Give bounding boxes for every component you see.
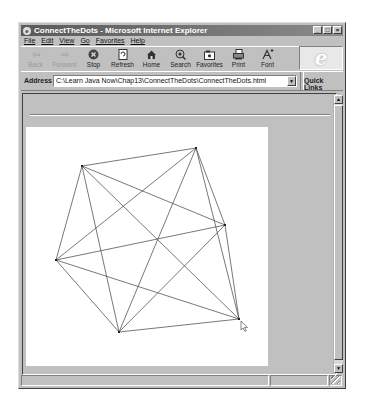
home-label: Home (143, 61, 160, 68)
forward-arrow-icon: ⇨ (59, 49, 71, 60)
connecting-line (119, 148, 196, 332)
font-icon-shape (262, 49, 274, 60)
refresh-label: Refresh (111, 61, 134, 68)
refresh-button[interactable]: Refresh (108, 47, 137, 71)
status-grip-panel (329, 375, 342, 386)
dot-D[interactable] (238, 318, 240, 320)
close-button[interactable]: × (333, 26, 342, 34)
scroll-thumb[interactable] (334, 105, 343, 360)
menu-help[interactable]: Help (131, 37, 145, 46)
address-dropdown-icon[interactable]: ▼ (287, 76, 296, 86)
stop-icon-shape (88, 49, 99, 60)
font-label: Font (261, 61, 274, 68)
favorites-label: Favorites (196, 61, 223, 68)
back-arrow-icon: ⇦ (30, 49, 42, 60)
menu-file[interactable]: File (24, 37, 35, 46)
connecting-line (82, 148, 196, 166)
home-icon-shape (146, 49, 157, 60)
minimize-button[interactable]: _ (313, 26, 322, 34)
horizontal-rule (30, 114, 330, 116)
maximize-button[interactable]: □ (323, 26, 332, 34)
connecting-line (56, 166, 82, 260)
refresh-icon-shape (118, 49, 128, 60)
scroll-down-button[interactable]: ▼ (334, 364, 343, 373)
dot-F[interactable] (55, 259, 57, 261)
connecting-line (82, 166, 239, 319)
search-label: Search (170, 61, 191, 68)
ie-app-icon: e (23, 27, 31, 35)
forward-button[interactable]: ⇨ Forward (50, 47, 79, 71)
resize-grip-icon[interactable] (331, 375, 340, 384)
address-bar: Address C:\Learn Java Now\Chap13\Connect… (21, 71, 343, 91)
connecting-line (82, 166, 225, 225)
menu-favorites[interactable]: Favorites (96, 37, 125, 46)
dot-C[interactable] (224, 224, 226, 226)
stop-icon (88, 49, 100, 60)
favorites-folder-icon (204, 49, 216, 60)
ie-throbber-logo: e (299, 46, 343, 70)
back-button[interactable]: ⇦ Back (21, 47, 50, 71)
title-bar: e ConnectTheDots - Microsoft Internet Ex… (21, 25, 343, 36)
home-icon (146, 49, 158, 60)
menu-view[interactable]: View (59, 37, 74, 46)
back-label: Back (28, 61, 42, 68)
vertical-scrollbar[interactable]: ▲ ▼ (333, 95, 343, 373)
dot-B[interactable] (195, 147, 197, 149)
stop-button[interactable]: Stop (79, 47, 108, 71)
favorites-icon-shape (204, 50, 215, 60)
dots-drawing[interactable] (26, 127, 268, 366)
dot-E[interactable] (118, 331, 120, 333)
connecting-line (196, 148, 225, 225)
dot-A[interactable] (81, 165, 83, 167)
scroll-up-button[interactable]: ▲ (334, 95, 343, 104)
status-bar (21, 375, 343, 386)
search-button[interactable]: Search (166, 47, 195, 71)
stop-label: Stop (87, 61, 100, 68)
home-button[interactable]: Home (137, 47, 166, 71)
print-label: Print (232, 61, 245, 68)
toolbar: ⇦ Back ⇨ Forward Stop Refresh Home (21, 46, 299, 72)
search-icon-shape (175, 49, 186, 60)
font-button[interactable]: Font (253, 47, 282, 71)
menu-bar: File Edit View Go Favorites Help (22, 37, 145, 46)
connecting-line (119, 319, 239, 332)
connecting-line (82, 166, 119, 332)
printer-icon-shape (233, 49, 244, 60)
connecting-line (196, 148, 239, 319)
connecting-line (119, 225, 225, 332)
forward-label: Forward (53, 61, 77, 68)
connecting-line (56, 260, 119, 332)
connecting-line (56, 260, 239, 319)
status-zone-panel (270, 375, 328, 386)
quick-links-button[interactable]: Quick Links (304, 77, 343, 91)
address-label: Address (24, 77, 52, 84)
mouse-cursor-icon (241, 321, 248, 332)
browser-window: e ConnectTheDots - Microsoft Internet Ex… (18, 22, 346, 389)
menu-edit[interactable]: Edit (41, 37, 53, 46)
print-button[interactable]: Print (224, 47, 253, 71)
connecting-line (56, 225, 225, 260)
status-text (21, 375, 269, 386)
address-input[interactable]: C:\Learn Java Now\Chap13\ConnectTheDots\… (53, 75, 297, 87)
page-content (22, 93, 337, 375)
search-icon (175, 49, 187, 60)
menu-go[interactable]: Go (80, 37, 89, 46)
connect-the-dots-applet[interactable] (26, 127, 268, 366)
refresh-icon (117, 49, 129, 60)
favorites-button[interactable]: Favorites (195, 47, 224, 71)
printer-icon (233, 49, 245, 60)
window-title: ConnectTheDots - Microsoft Internet Expl… (34, 26, 207, 35)
font-size-icon (262, 49, 274, 60)
